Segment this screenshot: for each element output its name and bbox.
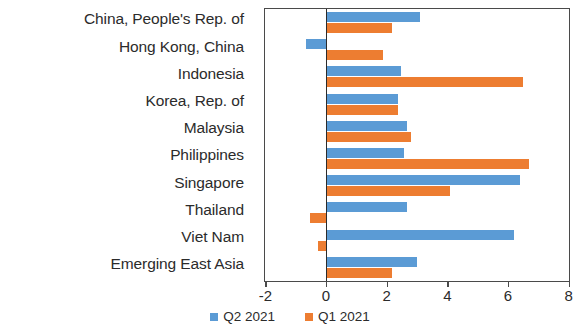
bar-q1-2021 (326, 159, 529, 169)
category-label: Thailand (185, 202, 244, 218)
bar-rows (265, 9, 569, 281)
category-label: Hong Kong, China (119, 39, 244, 55)
bar-q2-2021 (306, 39, 326, 49)
bar-q1-2021 (326, 186, 450, 196)
bar-q2-2021 (326, 66, 402, 76)
bar-q1-2021 (326, 23, 393, 33)
x-axis: -202468 (264, 282, 570, 306)
bar-q1-2021 (326, 77, 523, 87)
bar-row (265, 145, 569, 172)
x-tick-label: 8 (564, 287, 572, 304)
category-label: Malaysia (184, 120, 244, 136)
bar-row (265, 254, 569, 281)
category-label: Viet Nam (181, 229, 244, 245)
bar-row (265, 91, 569, 118)
bar-q2-2021 (326, 94, 399, 104)
bar-row (265, 118, 569, 145)
bar-row (265, 199, 569, 226)
legend-label: Q2 2021 (223, 309, 275, 324)
category-axis-labels: China, People's Rep. of Hong Kong, China… (0, 6, 252, 278)
plot-area (264, 8, 570, 282)
bar-q2-2021 (326, 230, 514, 240)
x-tick-label: 4 (443, 287, 451, 304)
category-label: Indonesia (178, 66, 244, 82)
bar-chart: China, People's Rep. of Hong Kong, China… (0, 0, 580, 330)
category-label: China, People's Rep. of (84, 11, 244, 27)
x-tick-label: 0 (322, 287, 330, 304)
legend-label: Q1 2021 (318, 309, 370, 324)
legend-item-q1: Q1 2021 (305, 309, 370, 324)
category-label: Philippines (170, 147, 244, 163)
bar-q1-2021 (326, 268, 393, 278)
bar-row (265, 63, 569, 90)
bar-q2-2021 (326, 121, 408, 131)
bar-q2-2021 (326, 202, 408, 212)
zero-axis-line (326, 9, 328, 281)
bar-q1-2021 (326, 132, 411, 142)
x-tick-label: 6 (504, 287, 512, 304)
bar-q2-2021 (326, 257, 417, 267)
bar-q1-2021 (310, 213, 325, 223)
category-label: Emerging East Asia (111, 256, 244, 272)
bar-q2-2021 (326, 148, 405, 158)
bar-row (265, 227, 569, 254)
legend-swatch-icon (210, 313, 218, 321)
x-tick-label: -2 (259, 287, 272, 304)
bar-row (265, 9, 569, 36)
bar-row (265, 36, 569, 63)
legend-item-q2: Q2 2021 (210, 309, 275, 324)
x-tick-label: 2 (383, 287, 391, 304)
bar-q1-2021 (326, 105, 399, 115)
category-label: Singapore (174, 175, 244, 191)
bar-q2-2021 (326, 12, 420, 22)
bar-q1-2021 (318, 241, 326, 251)
bar-row (265, 172, 569, 199)
category-label: Korea, Rep. of (145, 93, 244, 109)
bar-q1-2021 (326, 50, 384, 60)
bar-q2-2021 (326, 175, 520, 185)
legend-swatch-icon (305, 313, 313, 321)
chart-legend: Q2 2021 Q1 2021 (0, 309, 580, 324)
